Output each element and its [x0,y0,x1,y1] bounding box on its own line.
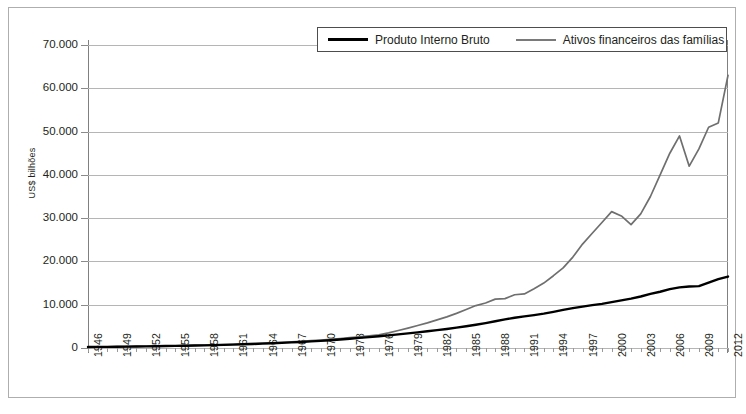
x-tick-1957 [195,348,196,352]
y-tick-6 [81,88,88,89]
y-tick-0 [81,348,88,349]
x-tick-1951 [136,348,137,352]
x-tick-label-1991: 1991 [528,333,540,357]
x-tick-label-1982: 1982 [441,333,453,357]
x-tick-label-1958: 1958 [208,333,220,357]
x-tick-label-1973: 1973 [354,333,366,357]
x-tick-1967 [292,348,293,352]
chart-figure: 010.00020.00030.00040.00050.00060.00070.… [0,0,746,414]
x-tick-2002 [631,348,632,352]
x-tick-1954 [166,348,167,352]
gridline-20000 [88,261,728,262]
x-tick-1985 [466,348,467,352]
x-tick-label-1976: 1976 [383,333,395,357]
x-tick-1978 [398,348,399,352]
y-tick-label-0: 0 [18,342,78,354]
plot-right-border [727,40,728,353]
x-tick-label-1946: 1946 [92,333,104,357]
x-tick-1946 [88,348,89,352]
x-tick-2008 [689,348,690,352]
x-tick-label-1988: 1988 [499,333,511,357]
x-tick-label-2003: 2003 [645,333,657,357]
x-tick-1994 [553,348,554,352]
x-tick-label-1997: 1997 [587,333,599,357]
y-tick-label-6: 60.000 [18,82,78,94]
gridline-60000 [88,88,728,89]
x-tick-1999 [602,348,603,352]
chart-legend: Produto Interno Bruto Ativos financeiros… [317,27,727,52]
x-tick-label-2009: 2009 [703,333,715,357]
x-tick-2009 [699,348,700,352]
y-tick-4 [81,175,88,176]
x-tick-1973 [350,348,351,352]
x-tick-label-1964: 1964 [267,333,279,357]
x-tick-1948 [107,348,108,352]
x-tick-1997 [583,348,584,352]
x-tick-1970 [321,348,322,352]
x-tick-2006 [670,348,671,352]
x-tick-1966 [282,348,283,352]
x-tick-label-1952: 1952 [150,333,162,357]
gridline-40000 [88,175,728,176]
x-tick-2005 [660,348,661,352]
x-tick-label-1955: 1955 [179,333,191,357]
x-tick-1960 [224,348,225,352]
x-tick-2000 [612,348,613,352]
x-tick-1981 [427,348,428,352]
gridline-50000 [88,132,728,133]
y-tick-label-7: 70.000 [18,39,78,51]
x-tick-label-2006: 2006 [674,333,686,357]
x-tick-1982 [437,348,438,352]
x-tick-label-1967: 1967 [296,333,308,357]
x-tick-label-1970: 1970 [325,333,337,357]
y-tick-3 [81,218,88,219]
legend-label-pib: Produto Interno Bruto [375,33,490,47]
x-tick-1979 [408,348,409,352]
y-tick-1 [81,305,88,306]
gridline-10000 [88,305,728,306]
x-tick-1987 [486,348,487,352]
gridline-30000 [88,218,728,219]
legend-swatch-ativos-icon [516,39,556,41]
y-tick-2 [81,261,88,262]
x-tick-label-1979: 1979 [412,333,424,357]
x-tick-1976 [379,348,380,352]
x-tick-1963 [253,348,254,352]
x-tick-1975 [369,348,370,352]
x-tick-2012 [728,348,729,352]
y-tick-7 [81,45,88,46]
x-tick-1972 [340,348,341,352]
x-tick-1961 [233,348,234,352]
x-tick-1991 [524,348,525,352]
x-tick-1969 [311,348,312,352]
legend-swatch-pib-icon [328,38,368,41]
x-tick-1988 [495,348,496,352]
y-tick-5 [81,132,88,133]
x-tick-1958 [204,348,205,352]
legend-entry-pib: Produto Interno Bruto [328,28,490,51]
x-tick-label-2000: 2000 [616,333,628,357]
x-tick-1984 [456,348,457,352]
y-axis-line [88,40,89,353]
x-tick-label-1994: 1994 [557,333,569,357]
x-tick-label-1949: 1949 [121,333,133,357]
x-tick-1964 [263,348,264,352]
x-tick-1996 [573,348,574,352]
y-tick-label-2: 20.000 [18,255,78,267]
legend-entry-ativos: Ativos financeiros das famílias [516,28,724,51]
x-tick-1949 [117,348,118,352]
x-tick-1952 [146,348,147,352]
x-tick-label-1985: 1985 [470,333,482,357]
x-tick-2011 [718,348,719,352]
x-tick-label-2012: 2012 [732,333,744,357]
x-tick-2003 [641,348,642,352]
y-axis-title: US$ bilhões [27,133,37,213]
x-tick-1990 [515,348,516,352]
x-tick-label-1961: 1961 [237,333,249,357]
x-tick-1955 [175,348,176,352]
legend-label-ativos: Ativos financeiros das famílias [563,33,724,47]
y-tick-label-3: 30.000 [18,212,78,224]
y-tick-label-1: 10.000 [18,299,78,311]
x-tick-1993 [544,348,545,352]
